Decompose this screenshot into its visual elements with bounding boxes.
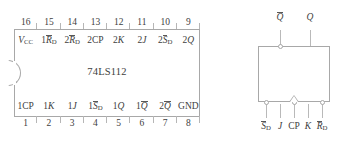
pin-label-bottom-5: 1Q	[130, 99, 153, 114]
pin-number-8: 8	[177, 117, 200, 130]
pin-number-7: 7	[154, 117, 177, 130]
pin-label-top-4: 2K	[107, 33, 130, 48]
output-label-0: Q	[266, 12, 294, 23]
pin-label-top-6: 2SD	[154, 33, 177, 48]
pin-number-14: 14	[61, 16, 84, 29]
top-pin-number-row: 161514131211109	[14, 16, 200, 29]
output-label-1: Q	[296, 12, 324, 22]
inverting-bubble-icon-input-0	[264, 100, 269, 105]
input-label-4: RD	[309, 121, 335, 132]
pin-number-13: 13	[84, 16, 107, 29]
pin-number-15: 15	[37, 16, 60, 29]
pin-label-bottom-0: 1CP	[14, 99, 37, 114]
pin-number-4: 4	[84, 117, 107, 130]
pin-label-bottom-6: 2Q	[154, 99, 177, 114]
flipflop-logic-symbol: QQ SDJCPKRD	[210, 0, 341, 152]
dip-pinout-diagram: 161514131211109 VCC1RD2RD2CP2K2J2SD2Q 74…	[0, 0, 210, 152]
pin-number-5: 5	[107, 117, 130, 130]
top-pin-label-row: VCC1RD2RD2CP2K2J2SD2Q	[14, 33, 200, 48]
pin-label-top-3: 2CP	[84, 33, 107, 48]
pin-number-3: 3	[61, 117, 84, 130]
pin-number-11: 11	[130, 16, 153, 29]
input-lead-0	[266, 104, 267, 118]
pin-label-top-7: 2Q	[177, 33, 200, 48]
pin-number-2: 2	[37, 117, 60, 130]
input-lead-4	[322, 104, 323, 118]
pin-label-bottom-7: GND	[177, 99, 200, 114]
pin-label-top-2: 2RD	[61, 33, 84, 48]
pin-number-1: 1	[14, 117, 37, 130]
pin-number-12: 12	[107, 16, 130, 29]
input-lead-3	[308, 104, 309, 118]
pin-label-top-0: VCC	[14, 33, 37, 48]
dynamic-edge-trigger-icon	[289, 95, 299, 102]
pin-label-bottom-1: 1K	[37, 99, 60, 114]
pin-label-bottom-4: 1Q	[107, 99, 130, 114]
pin-label-bottom-2: 1J	[61, 99, 84, 114]
logic-symbol-body	[258, 46, 330, 102]
pin-number-10: 10	[154, 16, 177, 29]
input-lead-2	[294, 104, 295, 118]
bottom-pin-label-row: 1CP1K1J1SD1Q1Q2QGND	[14, 99, 200, 114]
input-lead-1	[280, 104, 281, 118]
inverting-bubble-icon-output-0	[278, 44, 283, 49]
pin-label-bottom-3: 1SD	[84, 99, 107, 114]
pin-number-16: 16	[14, 16, 37, 29]
bottom-pin-number-row: 12345678	[14, 117, 200, 130]
chip-part-number: 74LS112	[14, 66, 200, 77]
inverting-bubble-icon-input-4	[320, 100, 325, 105]
pin-label-top-1: 1RD	[37, 33, 60, 48]
pin-label-top-5: 2J	[130, 33, 153, 48]
pin-number-6: 6	[130, 117, 153, 130]
output-lead-1	[310, 30, 311, 46]
pin-number-9: 9	[177, 16, 200, 29]
